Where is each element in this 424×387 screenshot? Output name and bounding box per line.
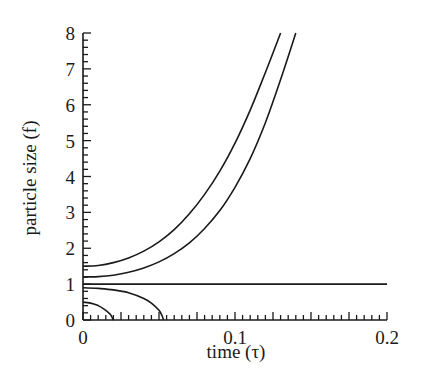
y-tick-label: 7 xyxy=(66,59,76,80)
y-tick-label: 1 xyxy=(66,274,76,295)
y-tick-label: 8 xyxy=(66,23,76,44)
y-tick-label: 0 xyxy=(66,310,76,331)
y-tick-label: 6 xyxy=(66,95,76,116)
y-tick-labels: 012345678 xyxy=(66,23,76,331)
y-tick-label: 2 xyxy=(66,238,76,259)
chart: 00.10.2 012345678 time (τ) particle size… xyxy=(0,0,424,387)
series-line xyxy=(83,33,281,266)
y-tick-label: 5 xyxy=(66,131,76,152)
series-line xyxy=(83,33,296,277)
y-tick-label: 3 xyxy=(66,202,76,223)
x-tick-label: 0 xyxy=(78,327,88,348)
tick-marks xyxy=(83,33,387,320)
x-tick-label: 0.2 xyxy=(375,327,399,348)
data-series xyxy=(83,33,387,320)
x-axis-title: time (τ) xyxy=(207,341,266,363)
y-tick-label: 4 xyxy=(66,167,76,188)
y-axis-title: particle size (f) xyxy=(19,121,41,236)
